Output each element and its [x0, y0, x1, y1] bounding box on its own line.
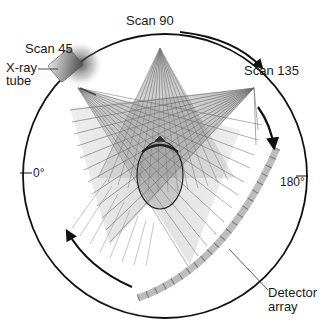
label-angle-0: 0° — [33, 166, 44, 180]
label-scan-45: Scan 45 — [25, 42, 73, 56]
label-scan-90: Scan 90 — [126, 14, 174, 28]
rotation-arrow-left-inner — [67, 231, 132, 287]
rotation-arrow-right — [258, 107, 274, 148]
label-angle-180: 180° — [280, 175, 305, 189]
label-scan-135: Scan 135 — [244, 64, 299, 78]
label-detector-1: Detector — [268, 286, 317, 300]
ct-scan-diagram: Scan 90 Scan 45 X-ray tube Scan 135 0° 1… — [0, 0, 322, 327]
label-detector-2: array — [268, 300, 298, 314]
detector-leader — [229, 249, 268, 290]
label-xray-tube-2: tube — [6, 74, 31, 88]
